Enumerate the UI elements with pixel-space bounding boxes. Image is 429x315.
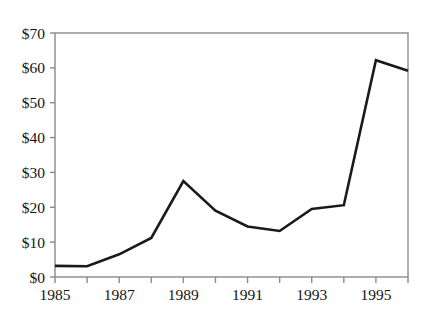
x-axis-tick-label: 1989	[168, 286, 199, 303]
y-axis-tick-label: $40	[22, 129, 46, 146]
y-axis-ticks	[50, 33, 55, 277]
x-axis-ticks	[55, 277, 408, 283]
x-axis-tick-label: 1985	[40, 286, 71, 303]
x-axis-tick-label: 1993	[296, 286, 327, 303]
y-axis-tick-label: $70	[22, 25, 46, 42]
y-axis-tick-label: $60	[22, 59, 46, 76]
y-axis-tick-label: $50	[22, 94, 46, 111]
y-axis-tick-label: $20	[22, 199, 46, 216]
data-series-line	[55, 60, 408, 266]
y-axis-tick-label: $0	[30, 269, 46, 286]
chart-figure: $0$10$20$30$40$50$60$70 1985198719891991…	[0, 0, 429, 315]
y-axis-tick-label: $30	[22, 164, 46, 181]
x-axis-tick-label: 1991	[232, 286, 263, 303]
x-axis-tick-label: 1995	[360, 286, 391, 303]
x-axis-tick-label: 1987	[104, 286, 135, 303]
x-axis-tick-labels: 198519871989199119931995	[40, 286, 392, 303]
line-chart-canvas: $0$10$20$30$40$50$60$70 1985198719891991…	[0, 0, 429, 315]
y-axis-tick-labels: $0$10$20$30$40$50$60$70	[22, 25, 46, 286]
y-axis-tick-label: $10	[22, 234, 46, 251]
